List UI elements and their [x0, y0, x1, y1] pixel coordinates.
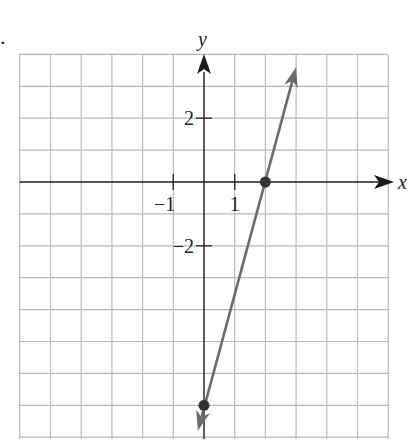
axes: [20, 54, 395, 439]
problem-marker: .: [0, 24, 6, 49]
plotted-point: [260, 177, 271, 188]
x-tick-label: −1: [154, 193, 175, 215]
y-tick-label: −2: [173, 235, 194, 257]
x-axis-label: x: [397, 171, 407, 193]
plotted-line: [196, 67, 297, 431]
plotted-point: [199, 400, 210, 411]
coordinate-plane: . x y −112−2: [0, 0, 413, 448]
y-axis-arrow-icon: [197, 54, 211, 74]
line-segment: [202, 81, 293, 418]
x-tick-label: 1: [230, 193, 240, 215]
y-axis-label: y: [196, 28, 207, 51]
y-tick-label: 2: [184, 107, 194, 129]
